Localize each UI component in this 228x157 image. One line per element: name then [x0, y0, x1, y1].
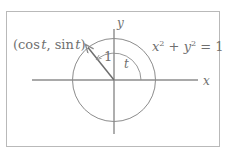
point-close-paren: ): [80, 37, 85, 52]
cos-function-name: cos: [18, 37, 40, 52]
point-comma: ,: [46, 37, 54, 52]
radius-length-label: 1: [104, 50, 112, 63]
angle-label: t: [124, 58, 129, 70]
equation-equals-sign: =: [196, 39, 215, 54]
unit-circle-diagram: [0, 0, 228, 157]
figure-container: (cos t, sin t) x2 + y2 = 1 1 t x y: [0, 0, 228, 157]
y-axis-label: y: [117, 17, 124, 29]
equation-value: 1: [215, 39, 223, 54]
sin-function-name: sin: [55, 37, 74, 52]
equation-plus-sign: +: [164, 39, 183, 54]
x-axis-label: x: [203, 75, 210, 87]
circle-equation-label: x2 + y2 = 1: [152, 40, 224, 53]
point-coordinates-label: (cos t, sin t): [13, 38, 85, 51]
equation-y-term: y: [184, 39, 191, 54]
